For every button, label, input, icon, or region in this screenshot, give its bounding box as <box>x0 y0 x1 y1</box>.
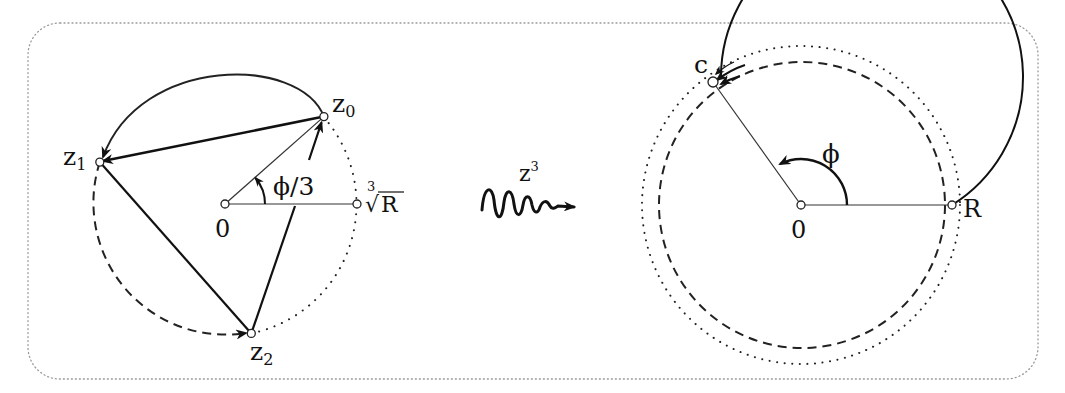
cube-map: z3 <box>482 159 574 217</box>
solid-circle-to-c <box>716 0 1023 205</box>
R-point <box>948 201 956 209</box>
origin-label: 0 <box>215 215 230 243</box>
radius-to-c <box>713 82 801 205</box>
z2-label: z2 <box>250 337 273 369</box>
z1-label: z1 <box>63 142 86 174</box>
origin-label-right: 0 <box>791 216 806 244</box>
cube-roots-diagram: 0 z0 z1 z2 ϕ/3 3 √ R z3 <box>0 0 1065 393</box>
dashed-arrow-to-c <box>721 76 740 84</box>
origin-point-right <box>797 201 805 209</box>
dotted-arrow-to-c <box>716 62 734 74</box>
c-label: c <box>694 50 708 79</box>
angle-phi-label: ϕ <box>822 139 840 169</box>
cube-root-R-point <box>353 200 361 208</box>
dotted-arc-z2-to-z0 <box>251 121 356 333</box>
angle-phi-third-label: ϕ/3 <box>273 172 314 201</box>
origin-point <box>221 200 229 208</box>
dashed-arc-z1-to-z2 <box>93 162 246 335</box>
R-label: R <box>963 195 982 223</box>
angle-arc-phi-third <box>256 178 266 204</box>
svg-text:R: R <box>381 192 399 217</box>
chord-z1-to-z2 <box>100 162 252 333</box>
cube-root-R-label: 3 √ R <box>365 179 404 217</box>
chord-z2-to-z0-lower <box>251 206 295 333</box>
left-panel-roots: 0 z0 z1 z2 ϕ/3 3 √ R <box>63 75 404 369</box>
c-point <box>708 77 718 87</box>
z1-point <box>96 158 104 166</box>
wavy-arrow <box>482 190 574 217</box>
z0-label: z0 <box>332 89 355 121</box>
z0-point <box>320 113 328 121</box>
map-label: z3 <box>519 159 539 186</box>
svg-text:√: √ <box>365 192 380 217</box>
right-panel-image: 0 R c ϕ <box>642 0 1023 364</box>
solid-arc-z0-to-z1 <box>103 75 324 157</box>
chord-z0-to-z1 <box>103 117 324 161</box>
